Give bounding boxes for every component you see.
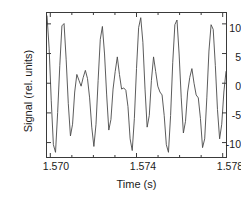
ytick-label-0: 0 [199,81,241,92]
xtick-label-1570: 1.570 [29,161,83,172]
ytick-label-5: 5 [199,52,241,63]
y-axis-label: Signal (rel. units) [22,11,34,171]
xtick-label-1578: 1.578 [203,161,241,172]
x-axis-label: Time (s) [46,178,227,190]
figure-container: 10 5 0 -5 -10 1.570 1.574 1.578 Time (s)… [0,0,241,199]
ytick-label-neg10: -10 [199,139,241,150]
xtick-label-1574: 1.574 [116,161,170,172]
ytick-label-neg5: -5 [199,110,241,121]
ytick-label-10: 10 [199,23,241,34]
